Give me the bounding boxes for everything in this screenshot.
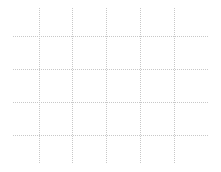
- horizontal-gridlines: [13, 37, 208, 136]
- chart-gridlines: [0, 0, 221, 172]
- vertical-gridlines: [40, 8, 175, 164]
